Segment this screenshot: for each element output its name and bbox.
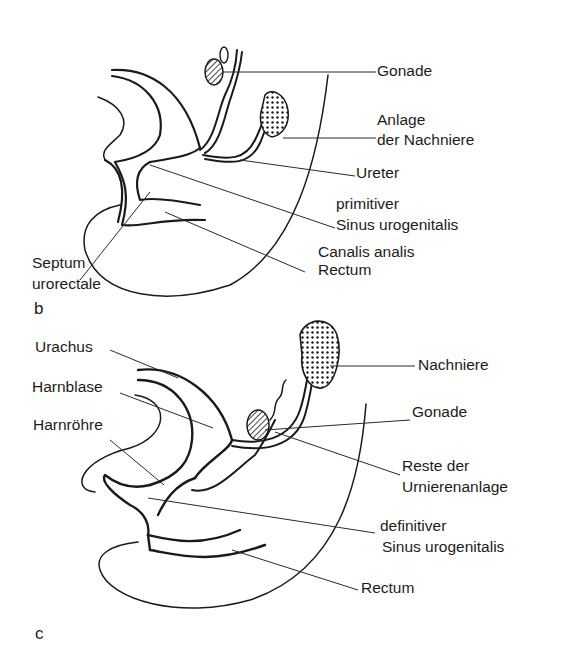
label-anlage-line2: der Nachniere bbox=[377, 130, 474, 150]
panel-c-drawing bbox=[82, 321, 366, 608]
label-sinus-c-line1: definitiver bbox=[380, 516, 446, 536]
label-gonade-b: Gonade bbox=[377, 61, 432, 81]
label-canalis-line2: Rectum bbox=[318, 260, 371, 280]
panel-letter-c: c bbox=[35, 624, 44, 644]
label-sinus-b-line2: Sinus urogenitalis bbox=[336, 215, 458, 235]
label-septum-line1: Septum bbox=[32, 253, 85, 273]
label-harnblase: Harnblase bbox=[32, 377, 103, 397]
label-anlage-line1: Anlage bbox=[377, 110, 425, 130]
label-rectum: Rectum bbox=[361, 578, 414, 598]
label-sinus-c-line2: Sinus urogenitalis bbox=[382, 537, 504, 557]
label-reste-line2: Urnierenanlage bbox=[402, 477, 508, 497]
label-canalis-line1: Canalis analis bbox=[318, 242, 415, 262]
label-sinus-b-line1: primitiver bbox=[336, 194, 399, 214]
panel-letter-b: b bbox=[34, 299, 43, 319]
label-septum-line2: urorectale bbox=[32, 274, 101, 294]
panel-c-leader-lines bbox=[110, 350, 415, 590]
label-nachniere: Nachniere bbox=[418, 355, 489, 375]
label-harnroehre: Harnröhre bbox=[33, 415, 103, 435]
label-urachus: Urachus bbox=[35, 337, 93, 357]
label-ureter: Ureter bbox=[356, 163, 399, 183]
panel-b-drawing bbox=[84, 47, 328, 296]
label-reste-line1: Reste der bbox=[402, 456, 469, 476]
label-gonade-c: Gonade bbox=[412, 402, 467, 422]
